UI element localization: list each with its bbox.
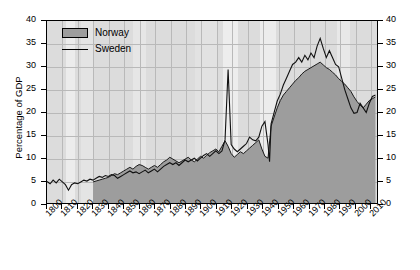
y-axis-tick-mark — [41, 158, 46, 159]
y-axis-tick-label: 40 — [386, 15, 396, 24]
legend-label-norway: Norway — [95, 28, 129, 38]
y-axis-tick-label: 25 — [26, 84, 36, 93]
y-axis-tick-mark — [378, 89, 383, 90]
sweden-color-swatch — [62, 44, 88, 54]
y-axis-tick-label: 25 — [386, 84, 396, 93]
x-axis: 1800181018201830184018501860187018801890… — [0, 204, 420, 270]
legend-entry-sweden: Sweden — [62, 42, 131, 56]
chart-container: Norway Sweden Percentage of GDP 05101520… — [0, 0, 420, 270]
y-axis-tick-mark — [41, 135, 46, 136]
y-axis-tick-label: 35 — [26, 38, 36, 47]
y-axis-tick-mark — [378, 112, 383, 113]
norway-area-series — [93, 62, 375, 204]
y-axis-tick-label: 35 — [386, 38, 396, 47]
y-axis-tick-label: 40 — [26, 15, 36, 24]
norway-color-swatch — [62, 28, 88, 38]
chart-legend: Norway Sweden — [62, 26, 131, 58]
y-axis-tick-mark — [41, 112, 46, 113]
y-axis-tick-mark — [41, 20, 46, 21]
y-axis-tick-label: 20 — [26, 107, 36, 116]
y-axis-tick-mark — [378, 66, 383, 67]
y-axis-tick-mark — [378, 135, 383, 136]
y-axis-tick-mark — [41, 66, 46, 67]
y-axis-tick-label: 10 — [26, 153, 36, 162]
legend-label-sweden: Sweden — [95, 44, 131, 54]
y-axis-tick-mark — [41, 181, 46, 182]
y-axis-tick-mark — [378, 158, 383, 159]
y-axis-tick-label: 30 — [386, 61, 396, 70]
y-axis-tick-mark — [378, 181, 383, 182]
y-axis-tick-label: 20 — [386, 107, 396, 116]
y-axis-tick-mark — [378, 20, 383, 21]
y-axis-tick-mark — [378, 43, 383, 44]
y-axis-tick-label: 15 — [26, 130, 36, 139]
y-axis-tick-label: 10 — [386, 153, 396, 162]
y-axis-tick-mark — [41, 89, 46, 90]
y-axis-tick-mark — [41, 43, 46, 44]
y-axis-tick-label: 5 — [31, 176, 36, 185]
y-axis-tick-label: 5 — [386, 176, 391, 185]
y-axis-tick-label: 15 — [386, 130, 396, 139]
y-axis-tick-label: 30 — [26, 61, 36, 70]
y-axis-title: Percentage of GDP — [13, 38, 24, 198]
legend-entry-norway: Norway — [62, 26, 131, 40]
